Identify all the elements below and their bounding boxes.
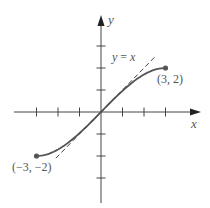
axes — [14, 15, 201, 203]
endpoint-dot — [34, 153, 39, 158]
line-label-x: x — [129, 50, 136, 64]
point-label-left: (−3, −2) — [12, 160, 52, 174]
y-axis-label: y — [106, 12, 114, 27]
x-axis-label: x — [190, 116, 197, 131]
chart: x y y = x (3, 2) (−3, −2) — [0, 0, 210, 208]
line-label-eq: = — [117, 50, 130, 64]
x-axis-arrow-icon — [190, 109, 201, 116]
line-label: y = x — [111, 50, 136, 64]
endpoint-dot — [163, 65, 168, 70]
point-label-right: (3, 2) — [157, 72, 183, 86]
y-axis-arrow-icon — [98, 15, 105, 26]
